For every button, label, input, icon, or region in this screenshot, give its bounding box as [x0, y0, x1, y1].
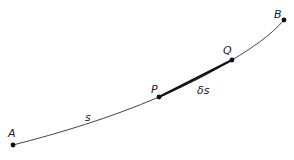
label-arc-length-s: s — [85, 111, 91, 124]
curve-a-to-b — [13, 20, 284, 145]
label-a: A — [7, 127, 16, 140]
point-b-dot — [282, 18, 287, 23]
label-q: Q — [223, 44, 232, 57]
chord-p-to-q — [159, 60, 232, 97]
point-q-dot — [230, 58, 235, 63]
point-a-dot — [11, 143, 16, 148]
arc-length-diagram: A P Q B s δs — [0, 0, 294, 160]
label-p: P — [151, 83, 158, 96]
label-delta-s: δs — [197, 84, 210, 97]
label-b: B — [274, 8, 282, 21]
